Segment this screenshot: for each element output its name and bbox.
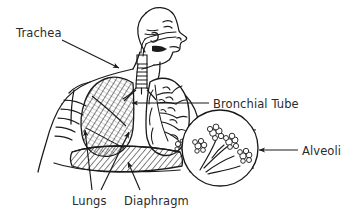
- label-trachea: Trachea: [16, 26, 62, 40]
- lung-left: [81, 77, 134, 156]
- nasal-passage: [141, 30, 176, 56]
- label-bronchial-tube: Bronchial Tube: [213, 97, 299, 111]
- respiratory-system-diagram: Trachea Bronchial Tube Alveoli Lungs Dia…: [0, 0, 357, 217]
- label-alveoli: Alveoli: [302, 144, 341, 158]
- label-lungs: Lungs: [72, 194, 107, 208]
- alveoli-inset: [182, 110, 258, 186]
- leader-trachea: [62, 40, 119, 68]
- label-diaphragm: Diaphragm: [124, 194, 189, 208]
